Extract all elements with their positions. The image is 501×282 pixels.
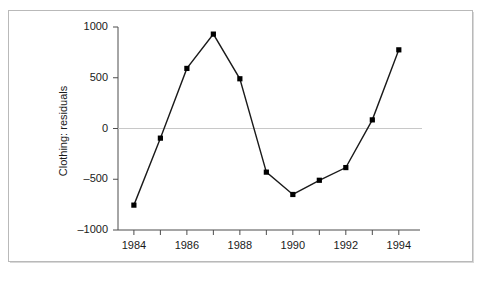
data-point-marker [317,178,322,183]
data-point-marker [131,203,136,208]
data-point-marker [184,66,189,71]
data-point-marker [211,32,216,37]
chart-figure: Clothing: residuals –1000–50005001000198… [0,0,501,282]
data-point-marker [343,165,348,170]
data-series-line [134,34,399,205]
plot-area [0,0,501,282]
data-point-marker [237,76,242,81]
data-point-markers [131,32,401,208]
data-point-marker [264,170,269,175]
data-point-marker [158,136,163,141]
data-point-marker [396,47,401,52]
data-point-marker [370,117,375,122]
data-point-marker [290,192,295,197]
axes-group [113,27,420,235]
